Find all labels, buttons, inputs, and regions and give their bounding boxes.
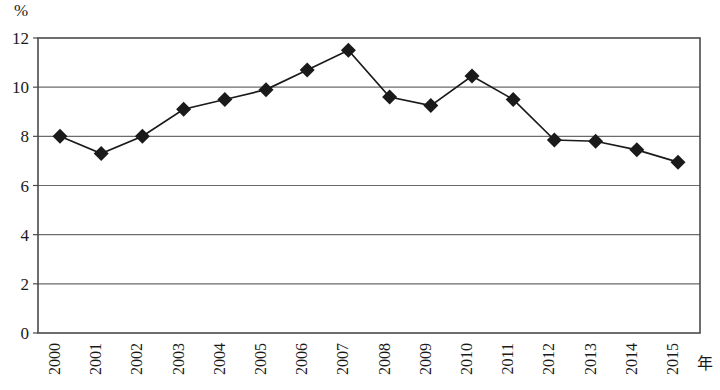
chart-container: % 024681012 2000200120022003200420052006…	[0, 0, 720, 390]
data-series-line	[60, 50, 678, 162]
x-axis-tick-label: 2008	[376, 343, 393, 375]
data-point-marker	[53, 129, 68, 144]
line-chart-plot: 024681012 200020012002200320042005200620…	[0, 0, 720, 390]
x-axis-tick-label: 2014	[623, 343, 640, 375]
data-point-marker	[176, 102, 191, 117]
y-axis-tick-label: 10	[12, 78, 29, 97]
data-point-marker	[217, 92, 232, 107]
x-axis-tick-label: 2007	[334, 343, 351, 375]
y-axis-tick-label: 12	[12, 29, 29, 48]
data-point-marker	[259, 82, 274, 97]
data-point-markers	[53, 43, 686, 170]
x-axis-tick-label: 2002	[128, 343, 145, 375]
x-axis-tick-labels: 2000200120022003200420052006200720082009…	[46, 343, 681, 375]
data-point-marker	[423, 98, 438, 113]
data-point-marker	[465, 69, 480, 84]
x-axis-tick-label: 2012	[540, 343, 557, 375]
x-axis-tick-label: 2000	[46, 343, 63, 375]
x-axis-tick-label: 2015	[664, 343, 681, 375]
x-axis-tick-label: 2011	[499, 343, 516, 374]
data-point-marker	[94, 146, 109, 161]
y-axis-tick-labels: 024681012	[12, 29, 30, 343]
x-axis-tick-label: 2006	[293, 343, 310, 375]
x-axis-unit-label: 年	[697, 356, 713, 372]
y-axis-tick-label: 6	[21, 177, 30, 196]
y-axis-tick-label: 2	[21, 275, 30, 294]
data-point-marker	[300, 62, 315, 77]
x-axis-tick-label: 2001	[87, 343, 104, 375]
x-axis-tick-label: 2013	[582, 343, 599, 375]
grid-lines	[33, 38, 700, 333]
x-axis-tick-label: 2005	[252, 343, 269, 375]
y-axis-tick-label: 0	[21, 324, 30, 343]
x-axis-tick-label: 2003	[170, 343, 187, 375]
x-axis-tick-label: 2010	[458, 343, 475, 375]
y-axis-tick-label: 8	[21, 127, 30, 146]
y-axis-tick-label: 4	[21, 226, 30, 245]
data-point-marker	[135, 129, 150, 144]
data-point-marker	[629, 142, 644, 157]
x-axis-tick-label: 2009	[417, 343, 434, 375]
x-axis-tick-label: 2004	[211, 343, 228, 375]
data-point-marker	[671, 155, 686, 170]
